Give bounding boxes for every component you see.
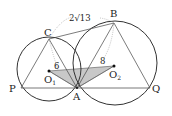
line-cb (49, 23, 114, 39)
label-o1: O1 (44, 74, 56, 86)
length-bo2-label: 8 (100, 56, 105, 66)
label-b: B (110, 8, 117, 19)
point-a-dot (76, 87, 78, 89)
label-a: A (72, 91, 81, 102)
geometry-diagram: C B P Q A O1 O2 2√13 6 8 (0, 0, 172, 116)
center-o2-dot (113, 65, 116, 68)
circle-o2 (73, 21, 157, 105)
label-q: Q (152, 83, 160, 94)
dotted-b-o2 (104, 23, 114, 58)
label-o2: O2 (109, 69, 121, 81)
center-o1-dot (48, 70, 51, 73)
label-p: P (9, 83, 16, 94)
length-co1-label: 6 (54, 61, 59, 71)
length-cb-label: 2√13 (69, 13, 91, 23)
label-c: C (44, 27, 52, 38)
